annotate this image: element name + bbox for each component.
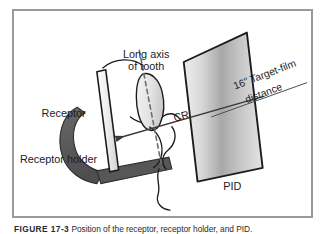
label-long-axis-line2: of tooth (128, 60, 164, 72)
figure-page: Long axis of tooth Receptor Receptor hol… (0, 0, 330, 234)
dental-radiography-diagram: Long axis of tooth Receptor Receptor hol… (14, 11, 311, 216)
caption-text: Position of the receptor, receptor holde… (71, 225, 252, 234)
label-central-ray: CR (172, 108, 191, 124)
label-pid: PID (223, 181, 241, 193)
caption-label: FIGURE 17-3 (14, 225, 69, 234)
label-long-axis-line1: Long axis (123, 48, 170, 60)
figure-frame: Long axis of tooth Receptor Receptor hol… (12, 9, 313, 218)
pid-shape (184, 33, 263, 182)
label-receptor: Receptor (42, 107, 86, 119)
receptor-plate (97, 70, 119, 172)
label-receptor-holder: Receptor holder (20, 153, 98, 165)
figure-caption: FIGURE 17-3 Position of the receptor, re… (14, 225, 326, 234)
